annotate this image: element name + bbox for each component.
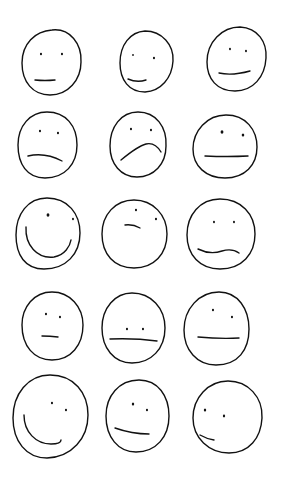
eye [45,313,47,316]
mouth [198,249,239,253]
face-slight-smile [207,27,266,91]
face-flat [102,293,165,363]
eye [245,50,247,52]
eye [47,213,50,217]
eye [146,409,148,412]
mouth [125,225,140,228]
mouth [35,80,55,81]
mouth [200,435,214,440]
eye [204,409,206,412]
eye [231,316,233,319]
eye [132,403,134,406]
eye [130,128,132,131]
eye [51,402,53,405]
face-slight-smile [120,31,173,92]
eye [229,48,231,50]
face-big-smile [13,375,88,458]
face-neutral [22,30,81,95]
face-big-smile [16,198,80,269]
face-outline [102,293,165,363]
eye [155,218,157,221]
face-outline [18,112,77,178]
eye [233,221,235,223]
eye [57,132,59,135]
mouth [24,415,61,444]
mouth [121,144,161,160]
eye [61,53,63,56]
face-outline [106,380,169,452]
eye [212,309,214,312]
face-outline [193,381,262,453]
eye [150,129,152,132]
face-flat [184,292,249,365]
eye [213,221,215,223]
face-outline [120,31,173,92]
eye [242,133,245,136]
eye [135,209,137,212]
eye [72,218,74,220]
mouth [205,156,248,157]
eye [40,53,42,56]
face-outline [110,112,166,177]
face-outline [207,27,266,91]
face-neutral [193,115,257,178]
mouth [198,337,239,338]
face-outline [102,200,167,268]
mouth [115,428,149,434]
face-outline [184,292,249,365]
face-outline [22,30,81,95]
mouth [26,227,71,257]
mouth [128,79,146,81]
face-wavy [187,199,255,269]
face-outline [193,115,257,178]
mouth [219,71,250,74]
face-frown [18,112,77,178]
eye [153,57,155,60]
face-sad [110,112,166,177]
face-smirk [193,381,262,453]
face-smirk [102,200,167,268]
eye [65,409,67,412]
eye [39,130,41,133]
eye [132,54,134,56]
face-outline [187,199,255,269]
eye [142,328,144,331]
mouth [110,339,157,341]
face-outline [22,292,83,360]
eye [221,130,224,134]
eye [223,415,225,418]
faces-drawing [0,0,282,487]
eye [59,316,61,319]
face-smile [106,380,169,452]
eye [126,328,128,331]
mouth [42,336,58,337]
face-neutral [22,292,83,360]
mouth [28,155,62,161]
